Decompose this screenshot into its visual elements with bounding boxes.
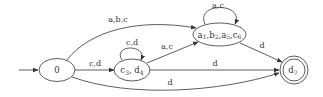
edge-label-q0-q3: d <box>167 78 172 87</box>
state-0: 0 <box>39 59 75 82</box>
edge-label-q1-q3: d <box>259 41 264 50</box>
edge-label-q2-loop: c,d <box>126 38 138 47</box>
automaton-diagram: a,b,c c,d d c,d a,c d a,c d 0 a1,b2,a5,c… <box>0 0 323 97</box>
edge-label-q0-q2: c,d <box>89 59 101 68</box>
edge-label-q1-loop: a,c <box>212 1 224 10</box>
edge-label-q2-q1: a,c <box>161 42 173 51</box>
edge-q0-q3 <box>72 73 279 90</box>
edge-label-q0-q1: a,b,c <box>108 15 128 24</box>
edge-label-q2-q3: d <box>212 59 217 68</box>
edge-q2-loop <box>120 48 142 60</box>
state-c3-d4: c3, d4 <box>114 59 150 81</box>
state-d7-accepting: d7 <box>280 56 308 84</box>
state-0-label: 0 <box>54 65 59 75</box>
state-a1-b2-a5-c6: a1,b2,a5,c6 <box>193 23 246 46</box>
